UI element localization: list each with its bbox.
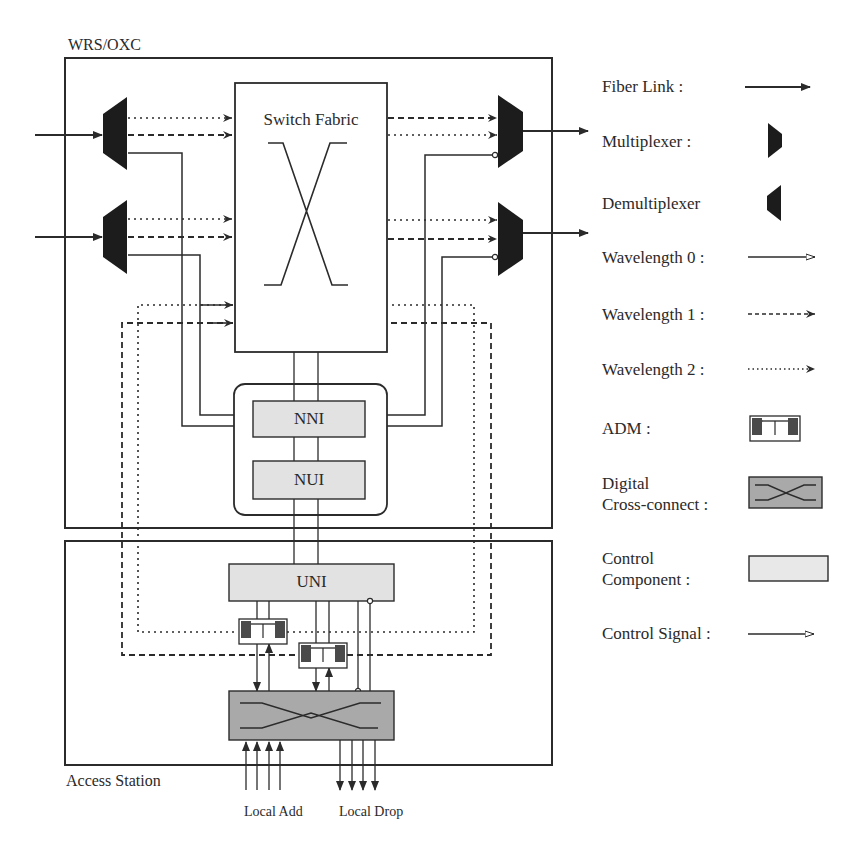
legend-wavelength-0: Wavelength 0 : xyxy=(602,247,705,268)
legend-digital-cross-connect: Digital Cross-connect : xyxy=(602,473,708,515)
uni-label: UNI xyxy=(229,572,394,592)
legend-multiplexer: Multiplexer : xyxy=(602,131,691,152)
multiplexer-2 xyxy=(498,202,523,276)
demultiplexer-1 xyxy=(103,97,127,170)
switch-fabric-label: Switch Fabric xyxy=(235,110,387,130)
network-diagram xyxy=(0,0,863,850)
local-add-label: Local Add xyxy=(244,802,303,821)
legend-wavelength-1: Wavelength 1 : xyxy=(602,304,705,325)
multiplexer-icon xyxy=(768,123,782,158)
demultiplexer-icon xyxy=(767,185,781,221)
demultiplexer-2 xyxy=(103,200,127,274)
wrs-oxc-title: WRS/OXC xyxy=(68,35,141,54)
legend-control-component: Control Component : xyxy=(602,548,690,590)
legend-fiber-link: Fiber Link : xyxy=(602,76,683,97)
adm-1 xyxy=(239,619,287,644)
legend-control-signal: Control Signal : xyxy=(602,623,711,644)
adm-legend-icon xyxy=(750,416,800,441)
nni-label: NNI xyxy=(253,409,365,429)
digital-cross-connect xyxy=(229,691,394,740)
nui-label: NUI xyxy=(253,470,365,490)
local-drop-label: Local Drop xyxy=(339,802,403,821)
cross-connect-legend-icon xyxy=(749,477,822,508)
legend-adm: ADM : xyxy=(602,418,651,439)
adm-2 xyxy=(299,643,347,668)
legend-wavelength-2: Wavelength 2 : xyxy=(602,359,705,380)
legend-demultiplexer: Demultiplexer xyxy=(602,193,700,214)
control-component-legend-icon xyxy=(749,556,828,581)
access-station-label: Access Station xyxy=(66,771,161,790)
multiplexer-1 xyxy=(498,95,523,168)
